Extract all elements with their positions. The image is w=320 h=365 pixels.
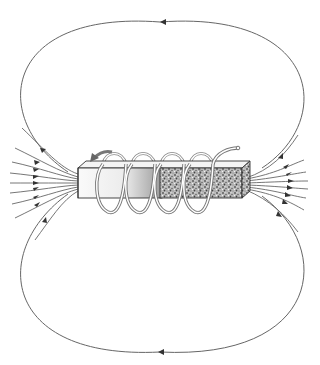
arrow-icon: [33, 175, 39, 179]
left-arrows: [33, 148, 47, 223]
top-loop-arrow-icon: [160, 19, 166, 25]
right-arrows: [276, 153, 294, 217]
top-loop: [21, 21, 304, 172]
arrow-icon: [288, 179, 294, 183]
arrow-icon: [34, 160, 40, 165]
electromagnet-diagram: Magnetic field lines of a solenoid with …: [0, 0, 320, 365]
diagram-canvas: [0, 0, 320, 365]
coil-lead-end: [236, 146, 240, 150]
arrow-icon: [286, 172, 292, 176]
left-field-lines: [10, 128, 78, 240]
right-field-lines: [246, 135, 308, 232]
bottom-loop: [21, 194, 304, 352]
iron-core: [78, 161, 250, 198]
arrow-icon: [33, 187, 39, 191]
arrow-icon: [33, 181, 39, 185]
bottom-loop-arrow-icon: [158, 349, 164, 355]
